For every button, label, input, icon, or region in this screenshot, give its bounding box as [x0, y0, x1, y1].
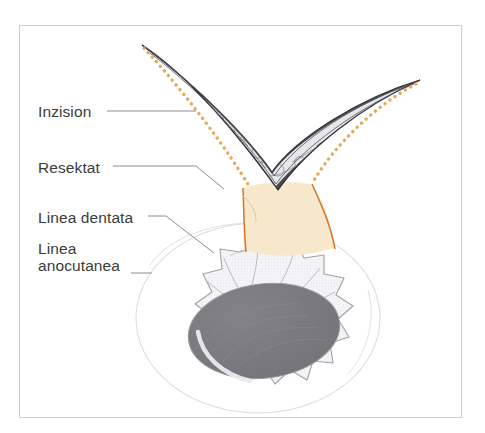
- leader-resektat: [113, 166, 224, 189]
- resektat-fill: [243, 182, 334, 256]
- leader-linea-dentata: [148, 216, 214, 253]
- incision-line-left: [144, 48, 249, 186]
- label-resektat: Resektat: [38, 159, 100, 176]
- band-outline-upper: [142, 45, 420, 172]
- buttock-outline-right: [348, 290, 371, 374]
- label-inzision: Inzision: [38, 103, 91, 120]
- label-linea-anocutanea: Linea anocutanea: [38, 240, 120, 274]
- resektat-wedge-group: [243, 182, 335, 256]
- tissue-band-group: [142, 45, 420, 190]
- label-linea-dentata: Linea dentata: [38, 209, 133, 226]
- medical-illustration-figure: Inzision Resektat Linea dentata Linea an…: [0, 0, 485, 433]
